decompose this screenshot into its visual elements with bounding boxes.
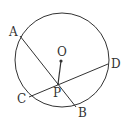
label-p: P [53, 86, 61, 100]
center-point-o [59, 59, 62, 62]
label-d: D [111, 57, 121, 71]
segment-op [58, 61, 61, 84]
geometry-diagram: A B C D O P [0, 0, 125, 121]
label-o: O [57, 45, 67, 59]
label-b: B [78, 106, 87, 120]
intersection-point-p [57, 83, 59, 85]
label-a: A [8, 25, 18, 39]
chord-ab [20, 36, 76, 107]
label-c: C [17, 92, 26, 106]
